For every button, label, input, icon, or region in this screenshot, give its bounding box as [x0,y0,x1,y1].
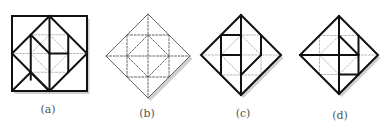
panel-d [300,16,381,97]
panel-label-c: (c) [228,107,258,120]
panel-label-a: (a) [33,103,63,116]
panel-label-b: (b) [132,107,162,120]
panel-b [106,14,193,101]
panel-c [201,15,284,98]
panel-label-d: (d) [325,109,355,122]
panel-a [12,16,90,94]
